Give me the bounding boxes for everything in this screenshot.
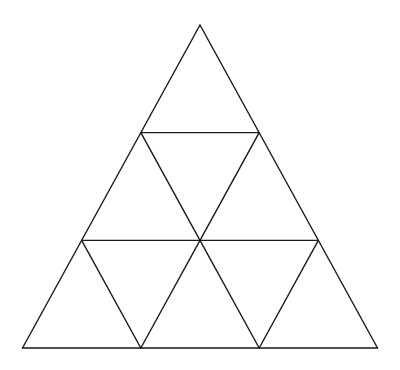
segment-inner-down-2 (82, 240, 141, 348)
segment-inner-down-1 (141, 133, 200, 241)
segment-inner-down-3 (200, 240, 259, 348)
subdivided-triangle-diagram (0, 0, 400, 370)
segment-outer-left (23, 25, 201, 348)
segment-inner-up-1 (200, 133, 259, 241)
triangle-grid-lines (23, 25, 378, 348)
segment-inner-up-3 (259, 240, 318, 348)
segment-inner-up-2 (141, 240, 200, 348)
segment-outer-right (200, 25, 378, 348)
